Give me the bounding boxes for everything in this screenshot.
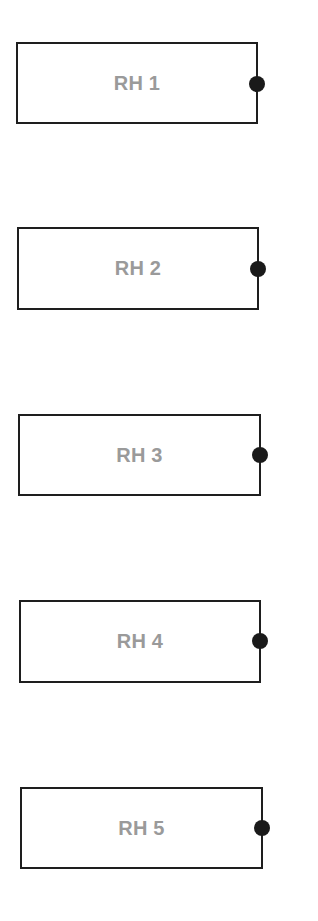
rh-box-4: RH 4	[19, 600, 261, 683]
rh-box-label: RH 3	[116, 444, 162, 467]
rh-box-5: RH 5	[20, 787, 263, 869]
connector-dot-icon	[252, 633, 268, 649]
rh-box-label: RH 5	[118, 817, 164, 840]
rh-box-label: RH 4	[117, 630, 163, 653]
rh-box-label: RH 1	[114, 72, 160, 95]
rh-box-3: RH 3	[18, 414, 261, 496]
rh-box-1: RH 1	[16, 42, 258, 124]
connector-dot-icon	[254, 820, 270, 836]
rh-box-2: RH 2	[17, 227, 259, 310]
rh-box-label: RH 2	[115, 257, 161, 280]
connector-dot-icon	[252, 447, 268, 463]
connector-dot-icon	[249, 76, 265, 92]
connector-dot-icon	[250, 261, 266, 277]
